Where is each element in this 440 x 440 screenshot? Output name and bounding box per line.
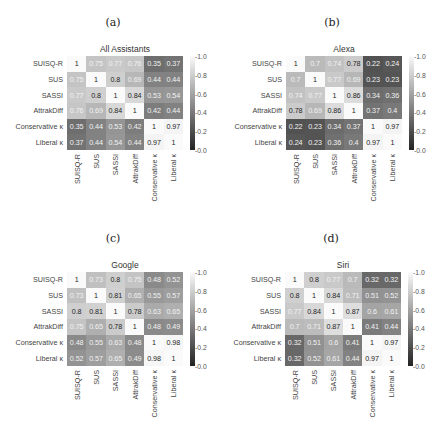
colorbar-tick-label: -0.6 xyxy=(413,306,425,313)
heatmap-cell: 0.22 xyxy=(286,119,305,135)
y-tick-label: Liberal κ xyxy=(219,134,283,150)
heatmap-cell: 0.53 xyxy=(106,119,125,135)
y-tick-label: Liberal κ xyxy=(218,350,282,366)
x-tick: AttrakDiff xyxy=(343,368,362,432)
heatmap-cell: 0.7 xyxy=(286,72,305,88)
heatmap-cell: 0.75 xyxy=(67,72,86,88)
heatmap-cell: 0.87 xyxy=(343,303,362,319)
colorbar-tick-label: -0.0 xyxy=(195,363,207,370)
x-tick-label: SUS xyxy=(91,370,100,385)
heatmap-cell: 0.44 xyxy=(382,319,401,335)
heatmap-cell: 0.4 xyxy=(344,134,363,150)
x-tick-label: SASSI xyxy=(111,154,120,175)
heatmap-cell: 0.97 xyxy=(383,119,402,135)
panel-all-assistants: (a) All Assistants SUISQ-RSUSSASSIAttrak… xyxy=(0,0,220,220)
heatmap-cell: 1 xyxy=(286,56,305,72)
heatmap-cell: 0.44 xyxy=(86,119,105,135)
x-tick-label: SUS xyxy=(91,154,100,169)
heatmap-cell: 0.71 xyxy=(343,288,362,304)
heatmap-cell: 0.81 xyxy=(106,288,125,304)
y-tick-label: SUS xyxy=(219,72,283,88)
heatmap-cell: 0.65 xyxy=(125,288,144,304)
x-tick-label: Conservative κ xyxy=(149,370,158,418)
x-tick-label: SASSI xyxy=(111,370,120,391)
x-tick: SUISQ-R xyxy=(285,368,304,432)
panel-label: (a) xyxy=(0,16,226,29)
heatmap-cell: 0.35 xyxy=(144,56,163,72)
heatmap-cell: 0.74 xyxy=(286,87,305,103)
colorbar-ticks: -1.0-0.8-0.6-0.4-0.2-0.0 xyxy=(414,56,438,150)
heatmap-cell: 0.8 xyxy=(106,272,125,288)
x-tick-label: SASSI xyxy=(330,154,339,175)
heatmap-cell: 0.69 xyxy=(344,72,363,88)
heatmap-cell: 0.52 xyxy=(304,350,323,366)
heatmap-cell: 0.51 xyxy=(362,288,381,304)
colorbar-tick-label: -0.8 xyxy=(413,287,425,294)
heatmap-cell: 0.55 xyxy=(86,335,105,351)
colorbar-tick-label: -0.2 xyxy=(195,344,207,351)
colorbar-tick-label: -0.2 xyxy=(413,344,425,351)
heatmap-cell: 0.36 xyxy=(383,87,402,103)
heatmap-cell: 0.87 xyxy=(324,319,343,335)
heatmap-cell: 0.55 xyxy=(144,288,163,304)
heatmap-cell: 0.76 xyxy=(125,56,144,72)
heatmap-cell: 0.84 xyxy=(304,303,323,319)
colorbar-tick-label: -1.0 xyxy=(195,269,207,276)
heatmap-cell: 0.97 xyxy=(362,350,381,366)
heatmap-cell: 0.77 xyxy=(325,72,344,88)
x-tick: Liberal κ xyxy=(164,368,183,432)
x-axis-labels: SUISQ-RSUSSASSIAttrakDiffConservative κL… xyxy=(285,368,401,432)
x-tick: SUS xyxy=(304,368,323,432)
y-axis-labels: SUISQ-RSUSSASSIAttrakDiffConservative κL… xyxy=(0,272,64,366)
heatmap-cell: 0.44 xyxy=(125,134,144,150)
heatmap-cell: 0.78 xyxy=(344,56,363,72)
heatmap-cell: 1 xyxy=(164,134,183,150)
heatmap-cell: 0.8 xyxy=(67,303,86,319)
x-tick-label: Conservative κ xyxy=(367,370,376,418)
y-tick-label: AttrakDiff xyxy=(0,319,64,335)
heatmap-cell: 0.84 xyxy=(106,103,125,119)
x-axis-labels: SUISQ-RSUSSASSIAttrakDiffConservative κL… xyxy=(67,368,183,432)
colorbar-tick-label: -0.4 xyxy=(413,325,425,332)
x-tick: SUS xyxy=(86,368,105,432)
heatmap-cell: 0.48 xyxy=(144,319,163,335)
y-tick-label: SASSI xyxy=(0,303,64,319)
heatmap-cell: 0.63 xyxy=(144,303,163,319)
heatmap-cell: 0.23 xyxy=(305,119,324,135)
heatmap-cell: 0.52 xyxy=(382,288,401,304)
y-tick-label: SASSI xyxy=(219,87,283,103)
heatmap-cell: 0.78 xyxy=(106,319,125,335)
heatmap-cell: 1 xyxy=(164,350,183,366)
heatmap-cell: 0.75 xyxy=(86,56,105,72)
panel-label: (d) xyxy=(218,232,440,245)
colorbar-tick-label: -0.2 xyxy=(414,128,426,135)
y-tick-label: SUISQ-R xyxy=(218,272,282,288)
heatmap-cell: 0.71 xyxy=(304,319,323,335)
x-tick: AttrakDiff xyxy=(344,152,363,216)
x-tick-label: SUS xyxy=(310,154,319,169)
x-tick: SASSI xyxy=(106,152,125,216)
x-tick: Liberal κ xyxy=(383,152,402,216)
heatmap-cell: 1 xyxy=(106,87,125,103)
x-tick-label: Liberal κ xyxy=(387,370,396,397)
heatmap-cell: 1 xyxy=(285,272,304,288)
heatmap-cell: 0.98 xyxy=(164,335,183,351)
x-tick: Conservative κ xyxy=(144,368,163,432)
chart-title: Siri xyxy=(284,260,402,270)
heatmap-cell: 0.23 xyxy=(363,72,382,88)
heatmap-cell: 0.49 xyxy=(164,319,183,335)
heatmap-cell: 1 xyxy=(144,119,163,135)
heatmap-cell: 0.44 xyxy=(144,72,163,88)
x-tick: SUS xyxy=(86,152,105,216)
y-tick-label: AttrakDiff xyxy=(0,103,64,119)
heatmap-cell: 0.32 xyxy=(362,272,381,288)
heatmap-cell: 0.49 xyxy=(125,350,144,366)
x-tick-label: SUISQ-R xyxy=(290,370,299,400)
colorbar-tick-label: -0.6 xyxy=(414,90,426,97)
x-tick-label: AttrakDiff xyxy=(130,154,139,183)
colorbar-tick-label: -0.6 xyxy=(195,306,207,313)
heatmap-cell: 1 xyxy=(382,350,401,366)
heatmap-cell: 1 xyxy=(67,56,86,72)
y-tick-label: SUS xyxy=(218,288,282,304)
colorbar-tick-label: -0.2 xyxy=(195,128,207,135)
